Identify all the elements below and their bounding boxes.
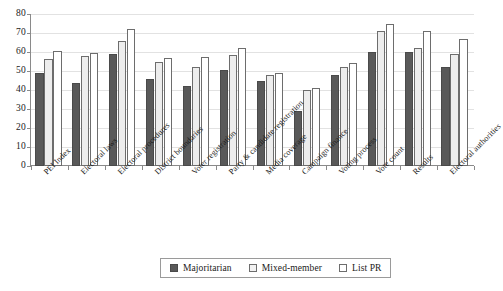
bar-group [405, 14, 431, 166]
bar [118, 41, 126, 166]
bar-group [72, 14, 98, 166]
y-tick-label: 80 [2, 9, 26, 19]
y-tick-label: 60 [2, 47, 26, 57]
bar [340, 67, 348, 166]
y-tick-mark [27, 52, 31, 53]
legend-label: List PR [352, 263, 381, 273]
legend-label: Mixed-member [262, 263, 322, 273]
bar [441, 67, 449, 166]
white-swatch [339, 264, 347, 272]
bar [155, 62, 163, 167]
bar [266, 75, 274, 166]
y-tick-mark [27, 109, 31, 110]
bar [44, 59, 52, 166]
bar [90, 53, 98, 166]
y-tick-label: 50 [2, 66, 26, 76]
bar [229, 55, 237, 166]
y-axis: 01020304050607080 [0, 0, 26, 180]
bar [35, 73, 43, 166]
plot-area: 01020304050607080 [0, 0, 481, 180]
legend-item: Mixed-member [249, 263, 322, 273]
legend-item: List PR [339, 263, 381, 273]
bar [81, 56, 89, 166]
y-tick-label: 10 [2, 142, 26, 152]
bar [459, 39, 467, 166]
bar [201, 57, 209, 166]
legend-label: Majoritarian [183, 263, 232, 273]
bar [238, 48, 246, 166]
bar [331, 75, 339, 166]
x-axis-labels: PEI IndexElectoral lawsElectoral procedu… [0, 166, 481, 246]
legend-item: Majoritarian [170, 263, 232, 273]
bar [405, 52, 413, 166]
dark-gray-swatch [170, 264, 178, 272]
bar [386, 24, 394, 167]
chart-legend: MajoritarianMixed-memberList PR [160, 258, 391, 278]
bar [164, 58, 172, 166]
y-tick-mark [27, 147, 31, 148]
bar [72, 83, 80, 166]
bar [127, 29, 135, 166]
y-tick-label: 20 [2, 123, 26, 133]
bar-group [441, 14, 467, 166]
bar [450, 54, 458, 166]
y-tick-mark [27, 128, 31, 129]
y-tick-label: 40 [2, 85, 26, 95]
y-tick-label: 70 [2, 28, 26, 38]
bar [183, 86, 191, 166]
bar [423, 31, 431, 166]
bar [257, 81, 265, 167]
bar [192, 67, 200, 166]
y-tick-mark [27, 14, 31, 15]
y-tick-mark [27, 71, 31, 72]
light-gray-swatch [249, 264, 257, 272]
bar [146, 79, 154, 166]
y-tick-mark [27, 33, 31, 34]
bar [220, 70, 228, 166]
bar-group [35, 14, 61, 166]
y-tick-mark [27, 90, 31, 91]
bar [377, 31, 385, 166]
bar [53, 51, 61, 166]
y-tick-label: 30 [2, 104, 26, 114]
bar [303, 90, 311, 166]
bar [414, 48, 422, 166]
